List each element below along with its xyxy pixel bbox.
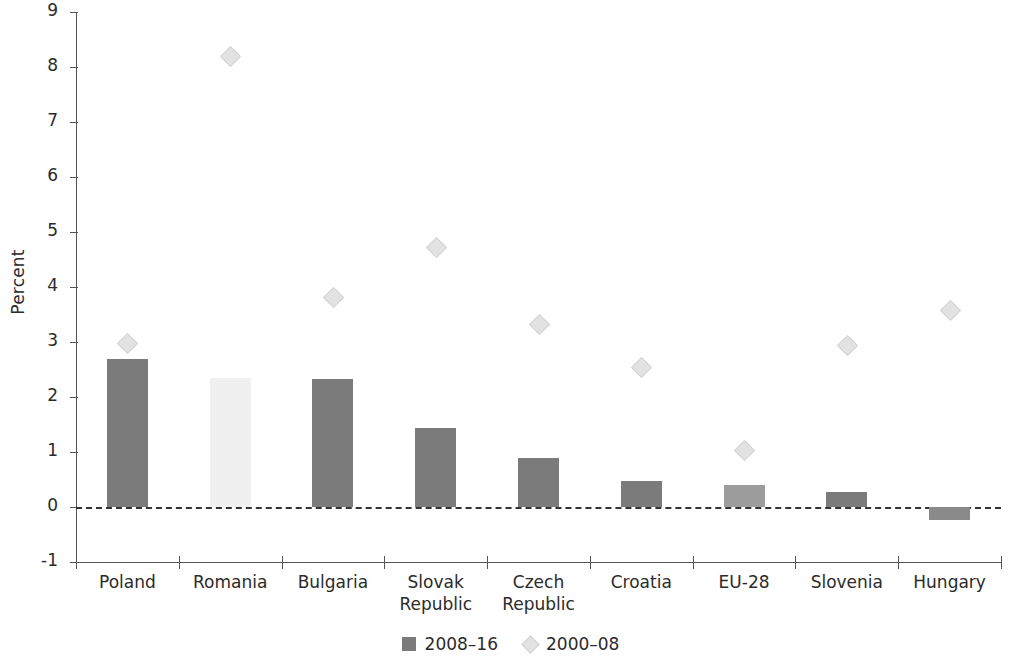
y-axis-tick-label: 5	[24, 222, 58, 239]
diamond-mark	[631, 357, 652, 378]
y-axis-tick-label: 1	[24, 442, 58, 459]
bar-mark	[312, 379, 353, 507]
x-axis-line	[76, 562, 1001, 563]
legend-label-2000-08: 2000–08	[546, 634, 619, 654]
bar-mark	[107, 359, 148, 508]
x-axis-category-label: Poland	[76, 572, 179, 594]
y-axis-tick-label: 8	[24, 57, 58, 74]
y-axis-tick-label: 6	[24, 167, 58, 184]
x-axis-category-label: Romania	[179, 572, 282, 594]
bar-mark	[724, 485, 765, 507]
diamond-mark	[117, 333, 138, 354]
x-axis-tick	[76, 556, 77, 569]
y-axis-tick	[70, 122, 78, 123]
x-axis-tick	[384, 556, 385, 569]
x-axis-tick	[590, 556, 591, 569]
diamond-mark	[220, 46, 241, 67]
diamond-mark	[837, 335, 858, 356]
x-axis-tick	[1001, 556, 1002, 569]
chart-legend: 2008–16 2000–08	[0, 634, 1021, 654]
y-axis-tick	[70, 232, 78, 233]
chart-container: Percent 9876543210-1 PolandRomaniaBulgar…	[0, 0, 1021, 666]
bar-mark	[518, 458, 559, 508]
x-axis-tick	[898, 556, 899, 569]
x-axis-category-label: Bulgaria	[282, 572, 385, 594]
diamond-mark	[426, 237, 447, 258]
x-axis-tick	[179, 556, 180, 569]
x-axis-category-label: Slovenia	[795, 572, 898, 594]
x-axis-tick	[487, 556, 488, 569]
zero-reference-line	[76, 507, 1001, 509]
y-axis-tick	[70, 452, 78, 453]
diamond-mark	[323, 287, 344, 308]
y-axis-tick	[70, 287, 78, 288]
y-axis-tick-label: 7	[24, 112, 58, 129]
y-axis-tick-label: 4	[24, 277, 58, 294]
x-axis-category-label: Czech Republic	[487, 572, 590, 616]
y-axis-tick-label: -1	[24, 552, 58, 569]
y-axis-tick-label: 3	[24, 332, 58, 349]
diamond-mark	[734, 440, 755, 461]
y-axis-tick	[70, 177, 78, 178]
x-axis-category-label: EU-28	[693, 572, 796, 594]
y-axis-tick-label: 2	[24, 387, 58, 404]
plot-marks	[0, 0, 1021, 666]
bar-mark	[415, 428, 456, 507]
y-axis-tick	[70, 67, 78, 68]
bar-mark	[621, 481, 662, 507]
diamond-mark	[940, 300, 961, 321]
legend-item-2008-16[interactable]: 2008–16	[402, 634, 498, 654]
x-axis-category-label: Slovak Republic	[384, 572, 487, 616]
y-axis-tick-label: 0	[24, 497, 58, 514]
y-axis-tick	[70, 397, 78, 398]
x-axis-tick	[282, 556, 283, 569]
y-axis-tick	[70, 342, 78, 343]
bar-mark	[210, 378, 251, 507]
y-axis-tick-label: 9	[24, 2, 58, 19]
legend-label-2008-16: 2008–16	[425, 634, 498, 654]
y-axis-tick	[70, 12, 78, 13]
x-axis-category-label: Croatia	[590, 572, 693, 594]
x-axis-category-label: Hungary	[898, 572, 1001, 594]
x-axis-tick	[795, 556, 796, 569]
x-axis-tick	[693, 556, 694, 569]
legend-item-2000-08[interactable]: 2000–08	[524, 634, 619, 654]
bar-swatch-icon	[402, 637, 416, 651]
diamond-swatch-icon	[521, 635, 539, 653]
diamond-mark	[528, 314, 549, 335]
bar-mark	[826, 492, 867, 507]
